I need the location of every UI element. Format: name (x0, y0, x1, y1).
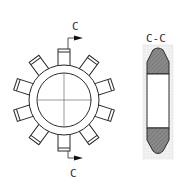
section-view: C-C (143, 32, 173, 159)
section-core (147, 74, 169, 128)
section-arrow-top: C (68, 20, 83, 49)
section-label-bottom: C (70, 167, 77, 180)
section-view-title: C-C (146, 32, 166, 45)
main-view: C C (14, 20, 115, 180)
section-label-top: C (72, 20, 79, 33)
technical-drawing: C C C-C (0, 0, 186, 185)
section-arrow-bottom: C (68, 151, 83, 180)
